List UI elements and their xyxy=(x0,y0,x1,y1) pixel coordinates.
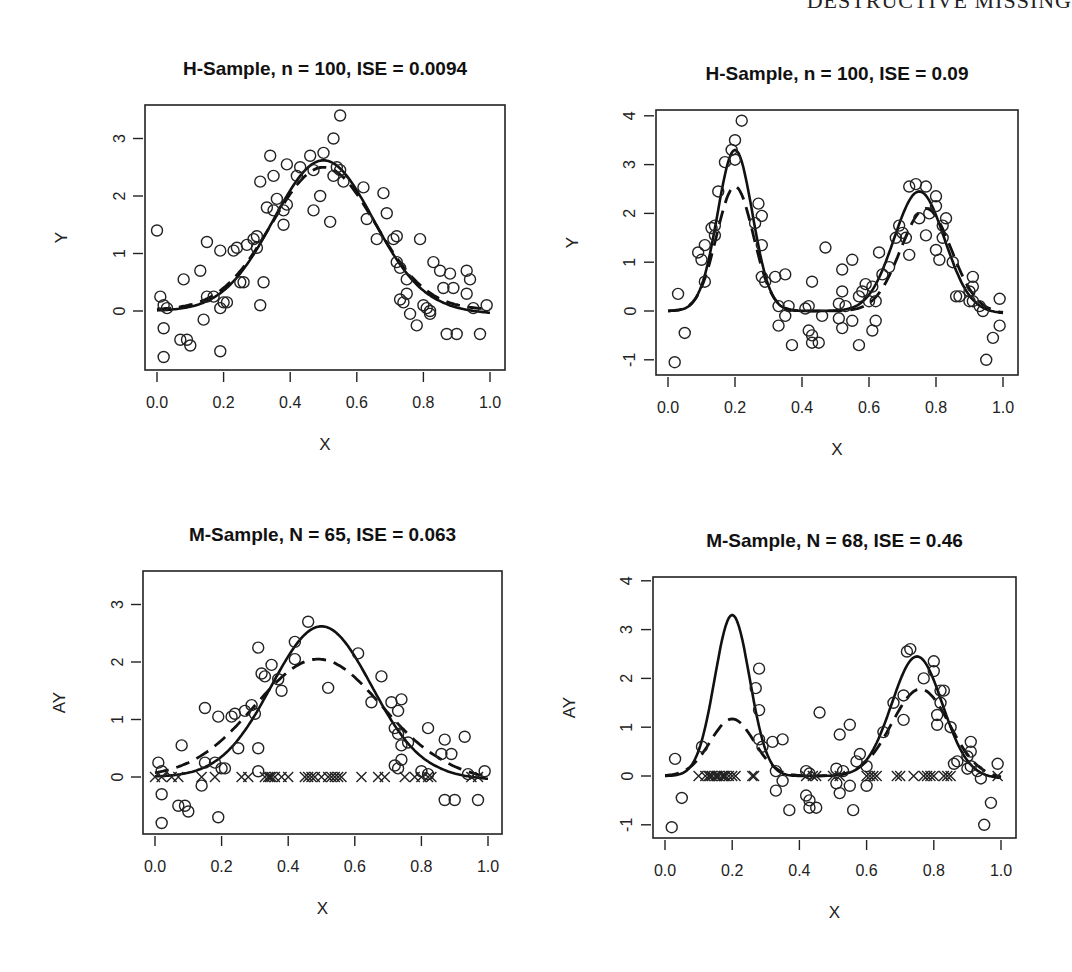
y-axis-label: AY xyxy=(50,692,69,713)
y-axis: 0123 xyxy=(109,600,142,782)
y-tick-label: -1 xyxy=(622,353,639,367)
x-axis: 0.00.20.40.60.81.0 xyxy=(146,372,501,411)
x-tick-label: 1.0 xyxy=(990,862,1012,879)
y-tick-label: 0 xyxy=(111,306,128,315)
panel-title: M-Sample, N = 65, ISE = 0.063 xyxy=(189,524,456,545)
y-axis-label: Y xyxy=(563,237,582,248)
y-tick-label: 4 xyxy=(622,111,639,120)
x-tick-label: 0.4 xyxy=(788,862,810,879)
observation-points xyxy=(153,616,490,828)
x-tick-label: 0.6 xyxy=(346,394,368,411)
x-tick-label: 0.8 xyxy=(923,862,945,879)
plot-area xyxy=(668,115,1005,368)
y-tick-label: 3 xyxy=(619,625,636,634)
x-tick-label: 0.8 xyxy=(925,399,947,416)
y-axis: 0123 xyxy=(111,134,144,316)
x-tick-label: 0.4 xyxy=(279,394,301,411)
y-tick-label: 3 xyxy=(622,160,639,169)
observation-points xyxy=(152,110,493,363)
y-axis: -101234 xyxy=(619,576,652,832)
x-tick-label: 1.0 xyxy=(479,394,501,411)
y-tick-label: 2 xyxy=(109,657,126,666)
y-tick-label: 1 xyxy=(619,723,636,732)
x-tick-label: 0.6 xyxy=(344,858,366,875)
x-axis: 0.00.20.40.60.81.0 xyxy=(657,377,1014,416)
y-tick-label: 1 xyxy=(111,249,128,258)
x-axis: 0.00.20.40.60.81.0 xyxy=(144,836,499,875)
y-axis: -101234 xyxy=(622,111,655,367)
x-tick-label: 0.8 xyxy=(412,394,434,411)
y-axis-label: AY xyxy=(560,697,579,718)
x-axis: 0.00.20.40.60.81.0 xyxy=(654,840,1012,879)
x-tick-label: 0.2 xyxy=(721,862,743,879)
x-tick-label: 0.2 xyxy=(210,858,232,875)
plot-area xyxy=(665,615,1003,833)
x-tick-label: 0.4 xyxy=(277,858,299,875)
panel-title: M-Sample, N = 68, ISE = 0.46 xyxy=(706,530,963,551)
x-axis-label: X xyxy=(829,903,840,922)
x-tick-label: 0.4 xyxy=(791,399,813,416)
x-tick-label: 0.6 xyxy=(858,399,880,416)
plot-area xyxy=(152,110,493,363)
y-tick-label: 4 xyxy=(619,576,636,585)
panel-bottom-right: M-Sample, N = 68, ISE = 0.46 X AY 0.00.2… xyxy=(560,530,1016,922)
y-tick-label: 0 xyxy=(619,771,636,780)
observation-points xyxy=(669,115,1005,368)
x-tick-label: 0.2 xyxy=(212,394,234,411)
plot-frame xyxy=(143,571,502,834)
panel-top-left: H-Sample, n = 100, ISE = 0.0094 X Y 0.00… xyxy=(52,58,505,454)
y-tick-label: 0 xyxy=(622,306,639,315)
plot-area xyxy=(150,616,490,828)
x-tick-label: 0.6 xyxy=(855,862,877,879)
x-axis-label: X xyxy=(317,899,328,918)
x-tick-label: 0.2 xyxy=(724,399,746,416)
true-curve-solid xyxy=(665,615,1001,778)
panel-top-right: H-Sample, n = 100, ISE = 0.09 X Y 0.00.2… xyxy=(563,63,1018,459)
x-axis-label: X xyxy=(319,435,330,454)
y-tick-label: 2 xyxy=(619,674,636,683)
plot-frame xyxy=(653,577,1016,838)
y-tick-label: 3 xyxy=(109,600,126,609)
x-axis-label: X xyxy=(831,440,842,459)
y-tick-label: -1 xyxy=(619,818,636,832)
y-tick-label: 2 xyxy=(622,209,639,218)
x-tick-label: 0.0 xyxy=(146,394,168,411)
x-tick-label: 0.0 xyxy=(654,862,676,879)
estimate-curve-dashed xyxy=(157,167,490,309)
panel-title: H-Sample, n = 100, ISE = 0.09 xyxy=(706,63,969,84)
x-tick-label: 1.0 xyxy=(992,399,1014,416)
y-tick-label: 3 xyxy=(111,134,128,143)
panel-bottom-left: M-Sample, N = 65, ISE = 0.063 X AY 0.00.… xyxy=(50,524,502,918)
panel-title: H-Sample, n = 100, ISE = 0.0094 xyxy=(183,58,468,79)
y-tick-label: 1 xyxy=(109,715,126,724)
y-tick-label: 2 xyxy=(111,191,128,200)
y-tick-label: 1 xyxy=(622,258,639,267)
x-tick-label: 0.8 xyxy=(410,858,432,875)
y-axis-label: Y xyxy=(52,232,71,243)
x-tick-label: 0.0 xyxy=(144,858,166,875)
x-tick-label: 1.0 xyxy=(477,858,499,875)
y-tick-label: 0 xyxy=(109,772,126,781)
x-tick-label: 0.0 xyxy=(657,399,679,416)
